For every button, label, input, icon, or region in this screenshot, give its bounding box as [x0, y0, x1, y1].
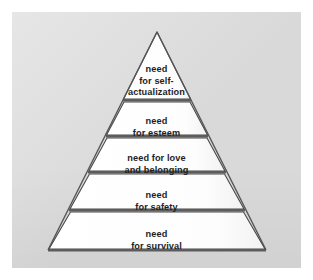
tier-label-line: need for self- actualization: [128, 64, 185, 98]
tier-label-love-and-belonging: need for love and belonging: [0, 142, 313, 176]
pyramid-tier-labels: need for self- actualization need for es…: [0, 0, 313, 280]
maslow-pyramid-figure: need for self- actualization need for es…: [0, 0, 313, 280]
tier-label-line: need for esteem: [133, 116, 180, 139]
tier-label-survival: need for survival: [0, 218, 313, 252]
tier-label-safety: need for safety: [0, 179, 313, 213]
tier-label-line: need for love and belonging: [124, 153, 188, 176]
tier-label-line: need for safety: [135, 190, 177, 213]
tier-label-esteem: need for esteem: [0, 105, 313, 139]
tier-label-line: need for survival: [131, 229, 182, 252]
tier-label-self-actualization: need for self- actualization: [0, 53, 313, 99]
